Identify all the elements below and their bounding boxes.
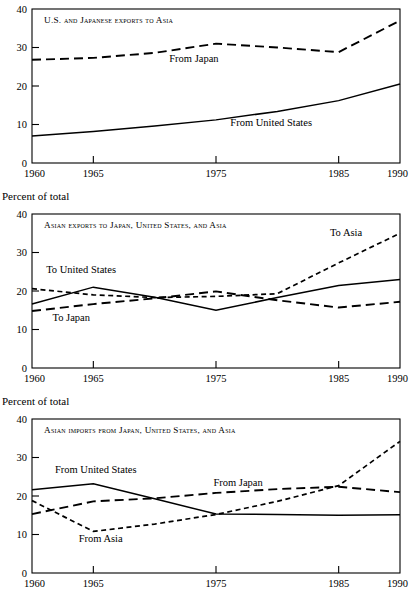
- chart-2-plot: 01020304019601965197519851990Asian expor…: [0, 190, 417, 395]
- series-label: From United States: [230, 117, 312, 128]
- y-tick-label: 10: [17, 119, 28, 130]
- chart-1-plot: 01020304019601965197519851990U.S. and Ja…: [0, 0, 417, 190]
- y-tick-label: 30: [17, 452, 28, 463]
- chart-panel-us-japanese-exports: 01020304019601965197519851990U.S. and Ja…: [0, 0, 417, 190]
- series-label: To Asia: [330, 227, 363, 238]
- chart-3-plot: 01020304019601965197519851990Asian impor…: [0, 395, 417, 610]
- chart-title: Asian exports to Japan, United States, a…: [44, 220, 227, 230]
- series-label: To Japan: [53, 312, 91, 323]
- x-tick-label: 1985: [328, 578, 349, 589]
- x-tick-label: 1990: [387, 578, 408, 589]
- x-tick-label: 1960: [24, 168, 45, 179]
- y-tick-label: 20: [17, 286, 28, 297]
- chart-title: U.S. and Japanese exports to Asia: [44, 15, 174, 25]
- x-tick-label: 1985: [328, 373, 349, 384]
- x-tick-label: 1975: [206, 578, 227, 589]
- series-line: [32, 84, 400, 136]
- x-tick-label: 1975: [206, 373, 227, 384]
- series-label: From Japan: [169, 53, 219, 64]
- chart-panel-asian-imports: Percent of total 01020304019601965197519…: [0, 395, 417, 610]
- y-tick-label: 40: [17, 209, 28, 220]
- y-tick-label: 20: [17, 491, 28, 502]
- x-tick-label: 1985: [328, 168, 349, 179]
- chart-title: Asian imports from Japan, United States,…: [44, 425, 236, 435]
- x-tick-label: 1965: [83, 168, 104, 179]
- y-tick-label: 30: [17, 42, 28, 53]
- chart-panel-asian-exports: Percent of total 01020304019601965197519…: [0, 190, 417, 395]
- x-tick-label: 1965: [83, 578, 104, 589]
- y-tick-label: 10: [17, 529, 28, 540]
- y-tick-label: 10: [17, 324, 28, 335]
- x-tick-label: 1960: [24, 373, 45, 384]
- y-tick-label: 40: [17, 414, 28, 425]
- series-label: From Asia: [79, 533, 123, 544]
- y-tick-label: 40: [17, 4, 28, 15]
- x-tick-label: 1990: [387, 373, 408, 384]
- x-tick-label: 1960: [24, 578, 45, 589]
- series-line: [32, 487, 400, 514]
- series-label: From Japan: [213, 477, 263, 488]
- x-tick-label: 1990: [387, 168, 408, 179]
- y-tick-label: 30: [17, 247, 28, 258]
- series-label: To United States: [46, 264, 116, 275]
- x-tick-label: 1965: [83, 373, 104, 384]
- series-line: [32, 484, 400, 516]
- x-tick-label: 1975: [206, 168, 227, 179]
- series-label: From United States: [55, 464, 137, 475]
- y-tick-label: 20: [17, 81, 28, 92]
